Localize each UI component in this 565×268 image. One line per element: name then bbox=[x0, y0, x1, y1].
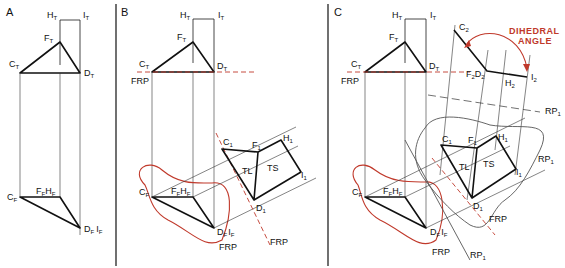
arrowhead-icon bbox=[523, 64, 530, 72]
label-d1: D1 bbox=[473, 201, 484, 212]
label-ft: FT bbox=[389, 32, 399, 43]
label-df-if: DFIF bbox=[430, 227, 448, 238]
label-frp-aux: FRP bbox=[270, 237, 288, 247]
projector bbox=[365, 118, 525, 197]
label-f2-d2: F2D2 bbox=[466, 69, 485, 80]
label-ff-hf: FFHF bbox=[383, 186, 403, 197]
label-frp: FRP bbox=[219, 242, 237, 252]
label-ht: HT bbox=[180, 10, 191, 21]
label-h1: H1 bbox=[498, 132, 509, 143]
label-dt: DT bbox=[217, 61, 228, 72]
label-cf: CF bbox=[7, 192, 18, 203]
label-f1: F1 bbox=[252, 140, 262, 151]
label-frp: FRP bbox=[432, 247, 450, 257]
label-cf: CF bbox=[139, 187, 150, 198]
label-tl: TL bbox=[242, 166, 253, 176]
label-rp1: RP1 bbox=[470, 250, 487, 261]
label-cf: CF bbox=[352, 187, 363, 198]
panel-c: C HT IT FT bbox=[334, 6, 562, 261]
panel-c-label: C bbox=[334, 6, 342, 18]
top-view-triangle bbox=[20, 42, 80, 73]
label-ct: CT bbox=[351, 59, 362, 70]
label-it: IT bbox=[83, 10, 90, 21]
label-df-if: DFIF bbox=[84, 224, 103, 235]
label-i1: I1 bbox=[516, 167, 523, 178]
front-view-triangle bbox=[365, 197, 426, 228]
label-d1: D1 bbox=[256, 203, 267, 214]
label-ts: TS bbox=[267, 163, 279, 173]
annotation-dihedral: DIHEDRAL bbox=[509, 26, 560, 36]
label-i1: I1 bbox=[301, 170, 308, 181]
label-ff-hf: FFHF bbox=[171, 186, 191, 197]
label-ct: CT bbox=[139, 59, 150, 70]
label-c2: C2 bbox=[459, 22, 470, 33]
label-dt: DT bbox=[84, 68, 95, 79]
descriptive-geometry-diagram: A HT IT FT CT DT CF FFHF DFIF B bbox=[0, 0, 565, 268]
top-view-triangle bbox=[365, 42, 426, 72]
label-ht: HT bbox=[47, 10, 58, 21]
label-rp1: RP1 bbox=[545, 106, 562, 117]
reference-line-rp1 bbox=[405, 140, 470, 260]
panel-a: A HT IT FT CT DT CF FFHF DFIF bbox=[6, 6, 103, 235]
label-frp-aux: FRP bbox=[489, 214, 507, 224]
label-ft: FT bbox=[177, 32, 187, 43]
label-frp: FRP bbox=[341, 76, 359, 86]
front-view-triangle bbox=[152, 197, 214, 228]
label-c1: C1 bbox=[223, 137, 234, 148]
front-view-triangle bbox=[20, 197, 80, 228]
annotation-angle: ANGLE bbox=[518, 36, 552, 46]
projector bbox=[440, 25, 455, 175]
label-rp1: RP1 bbox=[538, 154, 555, 165]
label-ct: CT bbox=[9, 59, 20, 70]
label-h2: H2 bbox=[505, 78, 516, 89]
label-it: IT bbox=[430, 10, 437, 21]
label-c1: C1 bbox=[442, 134, 453, 145]
highlight-outline bbox=[139, 165, 229, 243]
projector bbox=[426, 170, 545, 228]
panel-b-label: B bbox=[121, 6, 128, 18]
label-frp: FRP bbox=[131, 76, 149, 86]
label-ht: HT bbox=[392, 10, 403, 21]
aux-view-2-edge bbox=[454, 30, 527, 77]
panel-a-label: A bbox=[6, 6, 14, 18]
projector bbox=[515, 55, 530, 175]
panel-b: B HT IT FT CT DT FRP CF FFHF DFIF FRP FR… bbox=[121, 6, 316, 252]
label-it: IT bbox=[218, 10, 225, 21]
label-ts: TS bbox=[483, 159, 495, 169]
label-ff-hf: FFHF bbox=[36, 186, 56, 197]
label-tl: TL bbox=[459, 162, 470, 172]
label-h1: H1 bbox=[283, 133, 294, 144]
label-ft: FT bbox=[44, 33, 54, 44]
label-dt: DT bbox=[429, 61, 440, 72]
top-view-triangle bbox=[152, 42, 214, 72]
label-i2: I2 bbox=[531, 72, 538, 83]
